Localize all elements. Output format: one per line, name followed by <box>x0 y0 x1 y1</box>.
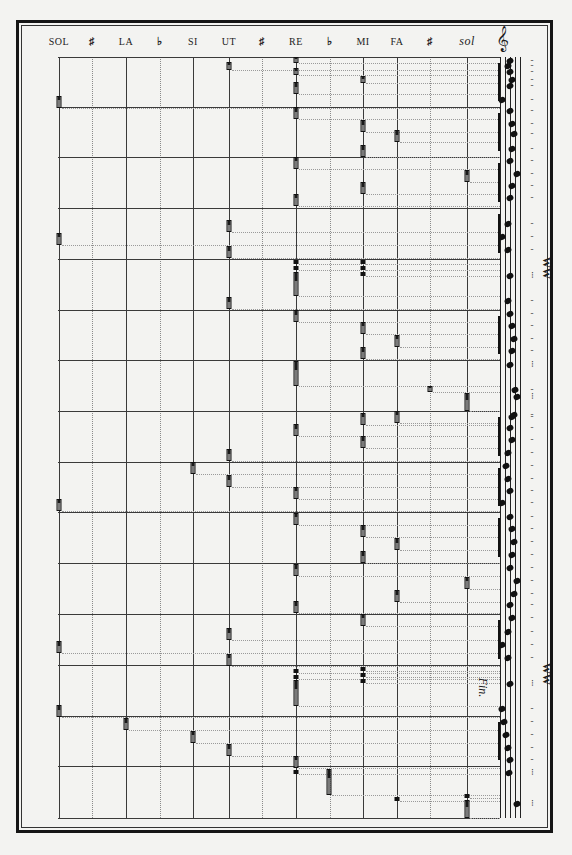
pin-dot <box>361 272 366 276</box>
pin-duration-line <box>232 232 500 233</box>
note-beam <box>498 63 500 101</box>
staff-line <box>505 57 506 818</box>
accidental-column-line <box>160 57 161 818</box>
duration-mark: ⁝ <box>531 391 534 401</box>
duration-mark: - <box>531 128 534 138</box>
pin-duration-line <box>366 537 500 538</box>
pin-marker <box>227 246 232 258</box>
duration-mark: - <box>531 345 534 355</box>
note-beam <box>498 468 500 506</box>
measure-line <box>58 360 500 361</box>
pin-marker <box>57 499 62 511</box>
pin-marker <box>361 145 366 157</box>
pin-marker <box>395 335 400 347</box>
column-line <box>59 57 60 818</box>
duration-mark: - <box>531 485 534 495</box>
pin-duration-line <box>299 296 500 297</box>
pin-duration-line <box>366 194 500 195</box>
measure-line <box>58 512 500 513</box>
duration-mark: - <box>531 422 534 432</box>
accidental-column-line <box>262 57 263 818</box>
duration-mark: - <box>531 473 534 483</box>
duration-mark: - <box>531 308 534 318</box>
pin-marker <box>294 82 299 94</box>
pin-marker <box>294 564 299 576</box>
pin-marker <box>294 680 299 706</box>
pin-duration-line <box>232 258 500 259</box>
duration-mark: - <box>531 105 534 115</box>
pin-duration-line <box>299 94 500 95</box>
pin-duration-line <box>232 640 500 641</box>
pin-dot <box>294 770 299 774</box>
pin-marker <box>57 233 62 245</box>
trill-ornament-icon: WW <box>541 257 553 279</box>
pin-dot <box>361 667 366 671</box>
pin-marker <box>395 538 400 550</box>
pin-duration-line <box>366 157 500 158</box>
note-beam <box>498 163 500 202</box>
pin-duration-line <box>470 182 500 183</box>
pin-duration-line <box>299 75 500 76</box>
pin-duration-line <box>299 525 500 526</box>
measure-line <box>58 462 500 463</box>
pin-duration-line <box>366 334 500 335</box>
duration-mark: - <box>531 612 534 622</box>
pin-duration-line <box>470 818 500 819</box>
pin-marker <box>191 731 196 743</box>
duration-mark: - <box>531 754 534 764</box>
pin-marker <box>227 220 232 232</box>
duration-mark: - <box>531 703 534 713</box>
note-beam <box>498 113 500 151</box>
pin-duration-line <box>400 347 500 348</box>
pin-marker <box>361 413 366 425</box>
pin-duration-line <box>232 756 500 757</box>
pin-dot <box>294 260 299 264</box>
duration-mark: - <box>531 118 534 128</box>
measure-line <box>58 208 500 209</box>
duration-mark: ⁝ <box>531 359 534 369</box>
pin-duration-line <box>299 499 500 500</box>
pin-duration-line <box>366 264 500 265</box>
pin-duration-line <box>400 423 500 424</box>
pin-marker <box>227 475 232 487</box>
pin-marker <box>294 57 299 63</box>
pin-marker <box>294 513 299 525</box>
pin-duration-line <box>299 169 500 170</box>
pin-duration-line <box>366 671 500 672</box>
pin-marker <box>294 107 299 119</box>
duration-mark: - <box>531 434 534 444</box>
pin-dot <box>361 673 366 677</box>
measure-line <box>58 57 500 58</box>
pin-marker <box>294 601 299 613</box>
measure-line <box>58 614 500 615</box>
duration-mark: ⁝ <box>531 270 534 280</box>
column-line <box>126 57 127 818</box>
pin-marker <box>428 386 433 392</box>
duration-mark: - <box>531 168 534 178</box>
trill-ornament-icon: WW <box>541 663 553 685</box>
duration-mark: - <box>531 231 534 241</box>
pin-duration-line <box>366 132 500 133</box>
pin-duration-line <box>299 673 500 674</box>
pin-duration-line <box>232 309 500 310</box>
duration-mark: - <box>531 94 534 104</box>
pin-duration-line <box>299 436 500 437</box>
duration-mark: - <box>531 652 534 662</box>
duration-mark: - <box>531 409 534 419</box>
pin-marker <box>227 628 232 640</box>
pin-duration-line <box>299 706 500 707</box>
duration-mark: - <box>531 192 534 202</box>
treble-clef-icon: 𝄞 <box>496 28 509 50</box>
duration-mark: - <box>531 244 534 254</box>
pin-duration-line <box>366 83 500 84</box>
pin-marker <box>294 157 299 169</box>
pin-dot <box>361 260 366 264</box>
column-line <box>193 57 194 818</box>
column-line <box>397 57 398 818</box>
pin-duration-line <box>299 386 500 387</box>
pin-marker <box>361 551 366 563</box>
duration-mark: - <box>531 497 534 507</box>
pin-marker <box>361 322 366 334</box>
pin-duration-line <box>196 474 500 475</box>
duration-mark: - <box>531 218 534 228</box>
